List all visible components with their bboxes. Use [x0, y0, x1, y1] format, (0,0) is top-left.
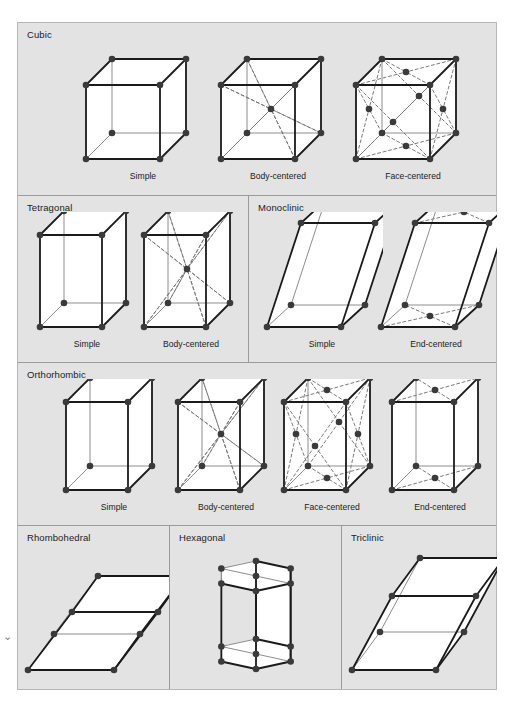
- lattice-cell-triclinic-simple: [346, 542, 497, 686]
- lattice-cell-monoclinic-simple: Simple: [261, 212, 383, 359]
- system-group-triclinic: Triclinic: [341, 526, 496, 689]
- cell-type-label: Simple: [32, 339, 142, 349]
- unit-cell-diagram: [22, 542, 169, 680]
- lattice-cell-monoclinic-end-centered: End-centered: [375, 212, 497, 359]
- cell-type-label: Face-centered: [348, 171, 478, 181]
- cell-type-label: Simple: [261, 339, 383, 349]
- cell-type-label: Body-centered: [136, 339, 246, 349]
- unit-cell-diagram: [213, 39, 343, 169]
- unit-cell-diagram: [58, 379, 170, 500]
- lattice-cell-cubic-simple: Simple: [78, 39, 208, 191]
- cell-type-label: Body-centered: [213, 171, 343, 181]
- rhombohedral-hexagonal-triclinic-row: RhombohedralHexagonalTriclinic: [18, 525, 496, 689]
- lattice-cell-orthorhombic-simple: Simple: [58, 379, 170, 522]
- cell-type-label: Body-centered: [170, 502, 282, 512]
- lattice-cell-orthorhombic-body-centered: Body-centered: [170, 379, 282, 522]
- unit-cell-diagram: [184, 542, 328, 680]
- unit-cell-diagram: [384, 379, 496, 500]
- unit-cell-diagram: [170, 379, 282, 500]
- cell-type-label: End-centered: [375, 339, 497, 349]
- lattice-cell-hexagonal-simple: [184, 542, 328, 686]
- unit-cell-diagram: [32, 212, 142, 337]
- cell-type-label: End-centered: [384, 502, 496, 512]
- lattice-cell-orthorhombic-face-centered: Face-centered: [276, 379, 388, 522]
- bravais-lattice-figure: CubicSimpleBody-centeredFace-centeredTet…: [17, 22, 497, 690]
- system-group-hexagonal: Hexagonal: [169, 526, 341, 689]
- system-group-monoclinic: MonoclinicSimpleEnd-centered: [248, 196, 496, 362]
- unit-cell-diagram: [348, 39, 478, 169]
- unit-cell-diagram: [276, 379, 388, 500]
- lattice-cell-tetragonal-simple: Simple: [32, 212, 142, 359]
- unit-cell-diagram: [346, 542, 497, 680]
- lattice-cell-orthorhombic-end-centered: End-centered: [384, 379, 496, 522]
- unit-cell-diagram: [375, 212, 497, 337]
- orthorhombic-row: OrthorhombicSimpleBody-centeredFace-cent…: [18, 362, 496, 525]
- corner-tick-mark: ⌄: [3, 630, 12, 643]
- unit-cell-diagram: [261, 212, 383, 337]
- lattice-cell-rhombohedral-simple: [22, 542, 169, 686]
- system-group-cubic: CubicSimpleBody-centeredFace-centered: [18, 23, 496, 195]
- unit-cell-diagram: [78, 39, 208, 169]
- lattice-cell-tetragonal-body-centered: Body-centered: [136, 212, 246, 359]
- lattice-cell-cubic-body-centered: Body-centered: [213, 39, 343, 191]
- lattice-cell-cubic-face-centered: Face-centered: [348, 39, 478, 191]
- system-group-orthorhombic: OrthorhombicSimpleBody-centeredFace-cent…: [18, 363, 496, 525]
- tetragonal-monoclinic-row: TetragonalSimpleBody-centeredMonoclinicS…: [18, 195, 496, 362]
- system-group-rhombohedral: Rhombohedral: [18, 526, 169, 689]
- cell-type-label: Simple: [78, 171, 208, 181]
- system-label: Cubic: [27, 29, 52, 40]
- cell-type-label: Simple: [58, 502, 170, 512]
- unit-cell-diagram: [136, 212, 246, 337]
- cubic-row: CubicSimpleBody-centeredFace-centered: [18, 23, 496, 195]
- system-group-tetragonal: TetragonalSimpleBody-centered: [18, 196, 248, 362]
- cell-type-label: Face-centered: [276, 502, 388, 512]
